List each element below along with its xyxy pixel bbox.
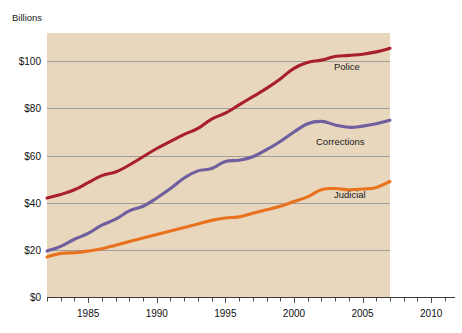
y-tick-label: $0 [30, 292, 42, 303]
chart-figure: Billions $0$20$40$60$80$100 198519901995… [0, 0, 462, 333]
y-tick-label: $100 [19, 56, 42, 67]
x-tick-label: 1985 [77, 308, 100, 319]
y-tick-label: $60 [24, 151, 41, 162]
x-tick-label: 2005 [351, 308, 374, 319]
y-axis-unit-label: Billions [12, 12, 42, 23]
x-tick-label: 2000 [283, 308, 306, 319]
line-chart-svg: Billions $0$20$40$60$80$100 198519901995… [0, 0, 462, 333]
series-label-judicial: Judicial [334, 189, 366, 200]
series-label-police: Police [334, 61, 360, 72]
series-label-corrections: Corrections [316, 136, 365, 147]
x-tick-label: 1995 [214, 308, 237, 319]
x-tick-label: 1990 [146, 308, 169, 319]
y-tick-label: $80 [24, 103, 41, 114]
y-tick-label: $20 [24, 245, 41, 256]
x-tick-label: 2010 [420, 308, 443, 319]
y-tick-label: $40 [24, 198, 41, 209]
